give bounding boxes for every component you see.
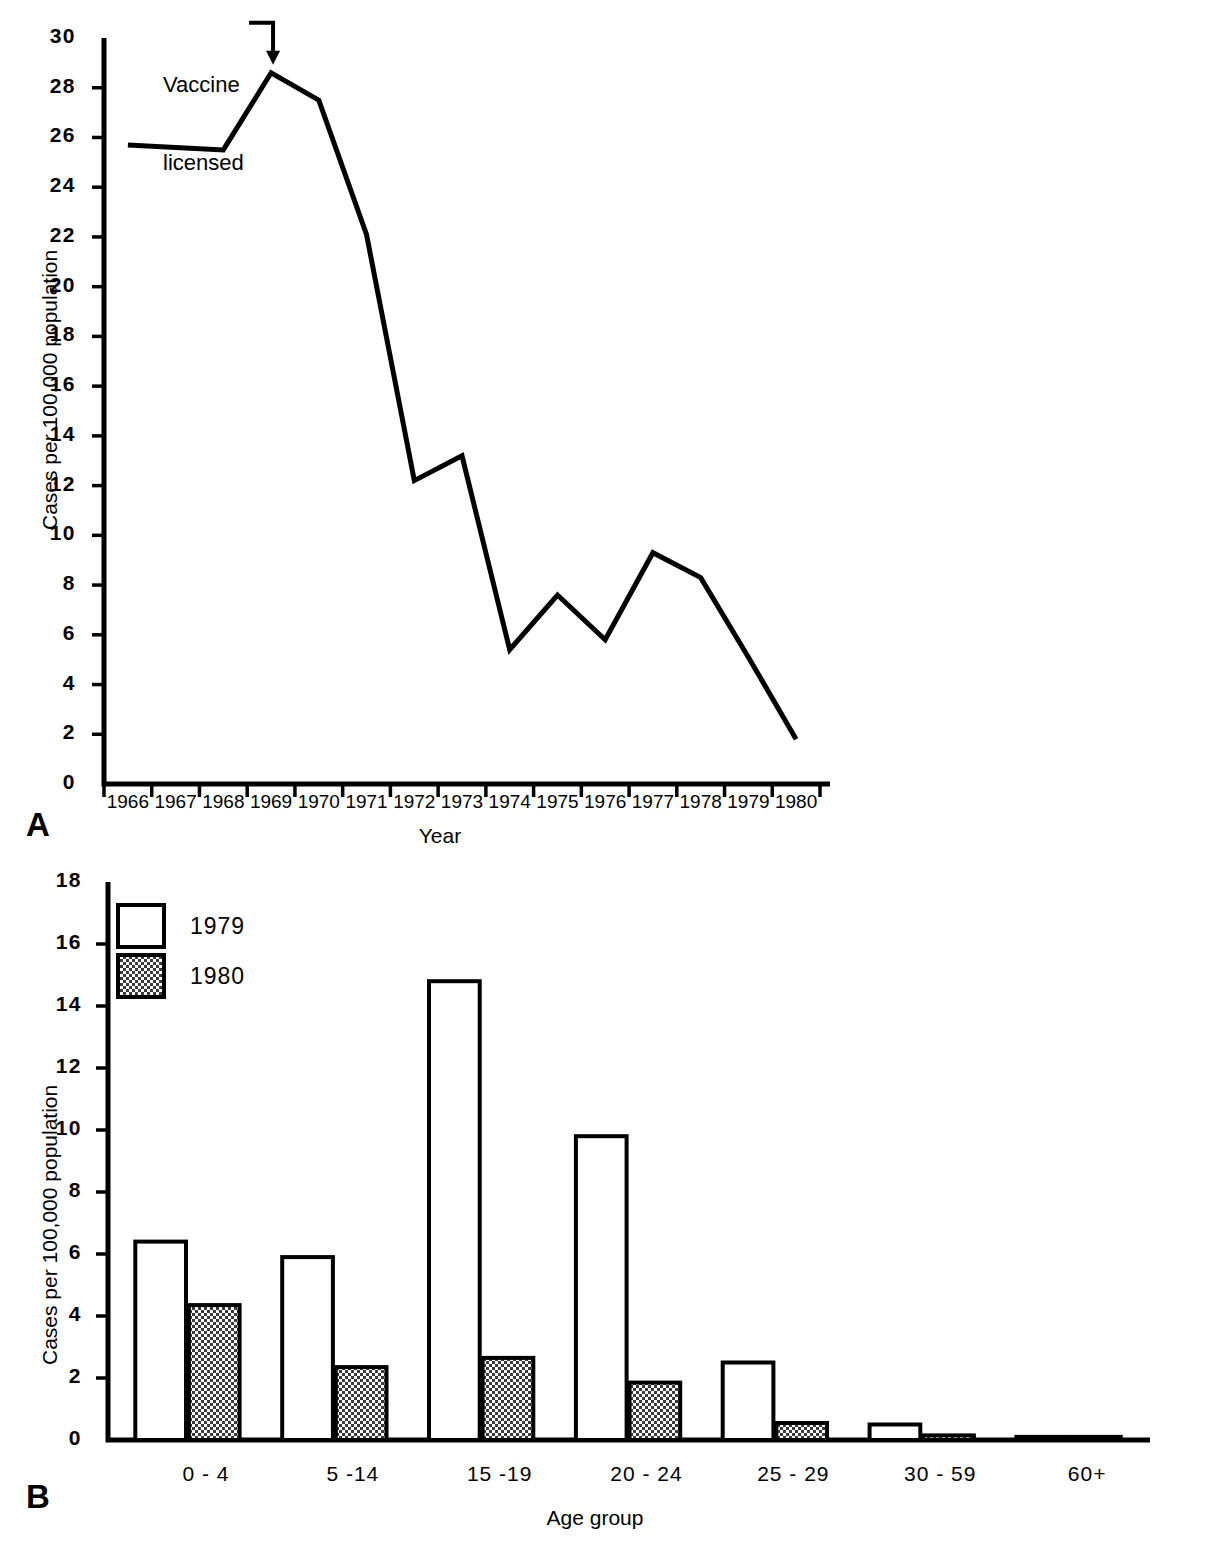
bar-1980-5-14 xyxy=(336,1367,387,1440)
bar-1979-5-14 xyxy=(282,1257,333,1440)
panel-b-age-label-5: 30 - 59 xyxy=(860,1462,1020,1486)
bar-1979-15-19 xyxy=(429,981,480,1440)
annotation-line-2: licensed xyxy=(163,150,244,176)
bar-1980-60+ xyxy=(1070,1437,1121,1440)
bar-1980-30-59 xyxy=(923,1435,974,1440)
legend-label-1979: 1979 xyxy=(190,913,245,940)
panel-b-bar-chart xyxy=(0,860,1217,1551)
annotation-line-1: Vaccine xyxy=(163,72,244,98)
bar-1980-20-24 xyxy=(630,1383,681,1440)
panel-a-y-tick-label-24: 24 xyxy=(28,173,76,197)
bar-1980-15-19 xyxy=(483,1358,534,1440)
bar-1979-20-24 xyxy=(576,1136,627,1440)
panel-b-y-tick-label-18: 18 xyxy=(34,868,82,892)
bar-1980-25-29 xyxy=(776,1423,827,1440)
bar-1979-60+ xyxy=(1016,1437,1067,1440)
bar-1979-25-29 xyxy=(723,1363,774,1441)
panel-a-y-tick-label-0: 0 xyxy=(28,770,76,794)
legend-swatch-1979 xyxy=(118,905,164,947)
panel-b-y-tick-label-2: 2 xyxy=(34,1364,82,1388)
legend-label-1980: 1980 xyxy=(190,963,245,990)
panel-b-y-tick-label-4: 4 xyxy=(34,1302,82,1326)
panel-b-x-axis-label: Age group xyxy=(0,1506,1190,1530)
panel-a-y-tick-label-6: 6 xyxy=(28,621,76,645)
panel-a-y-tick-label-26: 26 xyxy=(28,123,76,147)
bar-chart-canvas xyxy=(0,860,1217,1551)
panel-a-y-tick-label-22: 22 xyxy=(28,223,76,247)
panel-b-age-label-0: 0 - 4 xyxy=(126,1462,286,1486)
panel-a-y-tick-label-2: 2 xyxy=(28,720,76,744)
panel-b-y-tick-label-8: 8 xyxy=(34,1178,82,1202)
panel-a-y-tick-label-4: 4 xyxy=(28,671,76,695)
panel-a-y-tick-label-16: 16 xyxy=(28,372,76,396)
bar-1980-0-4 xyxy=(189,1305,240,1440)
panel-a-letter: A xyxy=(26,806,50,844)
vaccine-licensed-arrow-icon xyxy=(249,23,280,65)
panel-a-y-tick-label-30: 30 xyxy=(28,24,76,48)
panel-b-age-label-2: 15 -19 xyxy=(420,1462,580,1486)
panel-a-y-tick-label-18: 18 xyxy=(28,322,76,346)
panel-a-y-tick-label-12: 12 xyxy=(28,472,76,496)
panel-a-y-tick-label-10: 10 xyxy=(28,521,76,545)
panel-b-age-label-4: 25 - 29 xyxy=(713,1462,873,1486)
panel-b-y-tick-label-0: 0 xyxy=(34,1426,82,1450)
bar-1979-0-4 xyxy=(135,1242,186,1440)
panel-b-age-label-1: 5 -14 xyxy=(273,1462,433,1486)
vaccine-licensed-annotation: Vaccine licensed xyxy=(163,20,244,202)
panel-b-age-label-6: 60+ xyxy=(1007,1462,1167,1486)
legend-swatch-1980 xyxy=(118,955,164,997)
panel-a-y-tick-label-14: 14 xyxy=(28,422,76,446)
panel-b-y-tick-label-14: 14 xyxy=(34,992,82,1016)
panel-a-x-tick-label-1980: 1980 xyxy=(766,791,826,813)
panel-a-y-tick-label-20: 20 xyxy=(28,273,76,297)
panel-b-letter: B xyxy=(26,1478,50,1516)
panel-a-y-tick-label-8: 8 xyxy=(28,571,76,595)
panel-b-y-tick-label-12: 12 xyxy=(34,1054,82,1078)
panel-b-axis-spine xyxy=(108,882,1150,1440)
panel-b-y-tick-label-16: 16 xyxy=(34,930,82,954)
panel-b-age-label-3: 20 - 24 xyxy=(567,1462,727,1486)
bar-1979-30-59 xyxy=(870,1425,921,1441)
panel-a-x-axis-label: Year xyxy=(0,824,880,848)
panel-b-y-tick-label-10: 10 xyxy=(34,1116,82,1140)
panel-a-y-tick-label-28: 28 xyxy=(28,74,76,98)
panel-b-y-tick-label-6: 6 xyxy=(34,1240,82,1264)
